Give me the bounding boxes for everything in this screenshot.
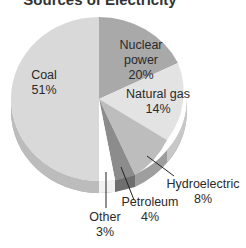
slice-coal [11, 17, 99, 181]
label-other: Other 3% [80, 210, 130, 240]
label-natural-gas-name: Natural gas [118, 87, 198, 102]
label-coal-name: Coal [14, 68, 74, 83]
label-hydroelectric-name: Hydroelectric [160, 177, 246, 192]
label-coal-pct: 51% [14, 83, 74, 98]
label-other-pct: 3% [80, 225, 130, 240]
label-natural-gas: Natural gas 14% [118, 87, 198, 117]
label-nuclear-name1: Nuclear [106, 38, 176, 53]
label-natural-gas-pct: 14% [118, 102, 198, 117]
label-petroleum-name: Petroleum [112, 195, 188, 210]
label-other-name: Other [80, 210, 130, 225]
label-nuclear-name2: power [106, 53, 176, 68]
label-coal: Coal 51% [14, 68, 74, 98]
label-nuclear-pct: 20% [106, 68, 176, 83]
label-nuclear: Nuclear power 20% [106, 38, 176, 83]
